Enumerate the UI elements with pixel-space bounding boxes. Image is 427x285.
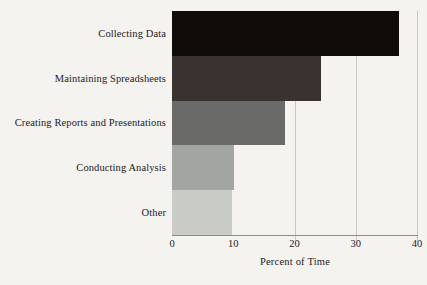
x-tick-label: 20 xyxy=(289,238,300,249)
bar-row xyxy=(172,101,417,146)
category-axis-labels: Collecting Data Maintaining Spreadsheets… xyxy=(0,11,166,235)
category-label: Collecting Data xyxy=(98,28,166,39)
bar-conducting-analysis xyxy=(172,145,234,190)
bar-chart-figure: Collecting Data Maintaining Spreadsheets… xyxy=(0,0,427,285)
plot-area xyxy=(172,11,417,235)
x-tick-label: 10 xyxy=(228,238,239,249)
category-label: Conducting Analysis xyxy=(76,162,166,173)
x-tick-label: 40 xyxy=(412,238,423,249)
category-label: Other xyxy=(142,207,166,218)
bar-collecting-data xyxy=(172,11,399,56)
bar-maintaining-spreadsheets xyxy=(172,56,321,101)
category-label: Maintaining Spreadsheets xyxy=(55,73,166,84)
bar-row xyxy=(172,190,417,235)
category-label: Creating Reports and Presentations xyxy=(15,117,166,128)
x-tick-label: 30 xyxy=(351,238,362,249)
bars-group xyxy=(172,11,417,235)
bar-creating-reports-and-presentations xyxy=(172,101,285,146)
bar-row xyxy=(172,145,417,190)
x-axis-line xyxy=(172,235,418,236)
x-axis-title: Percent of Time xyxy=(172,256,418,267)
bar-row xyxy=(172,56,417,101)
bar-row xyxy=(172,11,417,56)
category-label-row: Creating Reports and Presentations xyxy=(0,101,166,146)
category-label-row: Other xyxy=(0,190,166,235)
category-label-row: Conducting Analysis xyxy=(0,145,166,190)
x-tick-label: 0 xyxy=(169,238,174,249)
category-label-row: Maintaining Spreadsheets xyxy=(0,56,166,101)
bar-other xyxy=(172,190,232,235)
gridline-40 xyxy=(417,11,418,242)
category-label-row: Collecting Data xyxy=(0,11,166,56)
x-axis-tick-labels: 0 10 20 30 40 xyxy=(0,238,427,254)
